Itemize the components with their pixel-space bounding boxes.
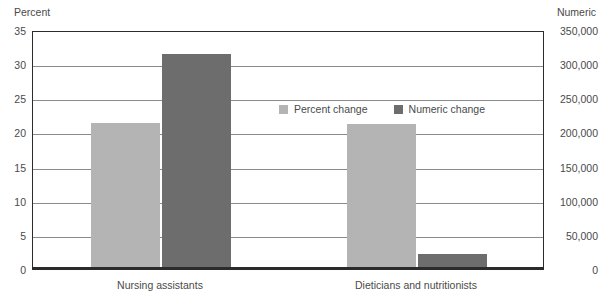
left-axis-tick-label: 30 <box>4 60 26 71</box>
legend-item: Numeric change <box>394 103 485 115</box>
legend-label: Percent change <box>294 103 368 115</box>
right-axis-tick-label: 250,000 <box>560 94 598 105</box>
right-axis-tick-label: 50,000 <box>566 231 598 242</box>
legend-swatch-icon <box>279 105 288 114</box>
left-axis-tick-label: 5 <box>4 231 26 242</box>
bar <box>91 123 160 267</box>
plot-area: Percent changeNumeric change <box>32 31 544 270</box>
left-axis-tick-label: 10 <box>4 197 26 208</box>
bar <box>418 254 487 267</box>
left-axis-title: Percent <box>14 6 50 18</box>
left-axis-tick-label: 0 <box>4 265 26 276</box>
legend-swatch-icon <box>394 105 403 114</box>
category-label: Nursing assistants <box>60 279 260 291</box>
bar <box>347 124 416 267</box>
legend-label: Numeric change <box>409 103 485 115</box>
right-axis-tick-label: 150,000 <box>560 163 598 174</box>
legend: Percent changeNumeric change <box>279 103 485 115</box>
gridline <box>33 66 543 67</box>
right-axis-title: Numeric <box>557 6 596 18</box>
right-axis-tick-label: 350,000 <box>560 26 598 37</box>
right-axis-tick-label: 300,000 <box>560 60 598 71</box>
category-label: Dieticians and nutritionists <box>316 279 516 291</box>
legend-item: Percent change <box>279 103 368 115</box>
right-axis-tick-label: 200,000 <box>560 128 598 139</box>
gridline <box>33 100 543 101</box>
left-axis-tick-label: 35 <box>4 26 26 37</box>
bar <box>162 54 231 267</box>
right-axis-tick-label: 0 <box>592 265 598 276</box>
left-axis-tick-label: 25 <box>4 94 26 105</box>
left-axis-tick-label: 15 <box>4 163 26 174</box>
left-axis-tick-label: 20 <box>4 128 26 139</box>
right-axis-tick-label: 100,000 <box>560 197 598 208</box>
